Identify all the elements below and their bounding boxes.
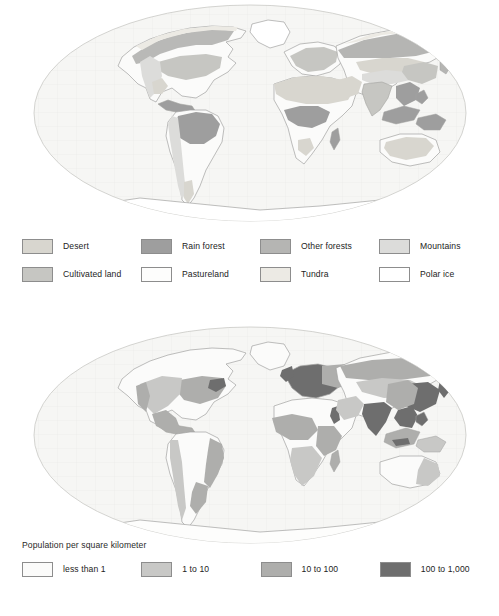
world-population-density-map bbox=[0, 322, 499, 550]
population-legend: Population per square kilometer less tha… bbox=[0, 540, 499, 616]
swatch-desert bbox=[22, 239, 53, 254]
legend-item-100-to-1000[interactable]: 100 to 1,000 bbox=[380, 562, 499, 577]
swatch-100-to-1000 bbox=[380, 562, 411, 577]
legend-label-10-to-100: 10 to 100 bbox=[302, 565, 339, 574]
legend-label-1-to-10: 1 to 10 bbox=[182, 565, 209, 574]
swatch-cultivated-land bbox=[22, 267, 53, 282]
land-use-map-svg bbox=[0, 0, 499, 228]
legend-item-other-forests[interactable]: Other forests bbox=[260, 239, 379, 254]
swatch-pastureland bbox=[141, 267, 172, 282]
legend-item-tundra[interactable]: Tundra bbox=[260, 267, 379, 282]
legend-label-mountains: Mountains bbox=[420, 242, 461, 251]
swatch-polar-ice bbox=[379, 267, 410, 282]
legend-label-rain-forest: Rain forest bbox=[182, 242, 225, 251]
legend-item-less-than-1[interactable]: less than 1 bbox=[22, 562, 141, 577]
legend-row-population: less than 1 1 to 10 10 to 100 100 to 1,0… bbox=[0, 556, 499, 582]
world-land-use-map bbox=[0, 0, 499, 228]
legend-item-polar-ice[interactable]: Polar ice bbox=[379, 267, 498, 282]
legend-label-desert: Desert bbox=[63, 242, 89, 251]
legend-label-other-forests: Other forests bbox=[301, 242, 352, 251]
legend-item-mountains[interactable]: Mountains bbox=[379, 239, 498, 254]
swatch-mountains bbox=[379, 239, 410, 254]
legend-item-10-to-100[interactable]: 10 to 100 bbox=[261, 562, 380, 577]
land-use-legend: Desert Rain forest Other forests Mountai… bbox=[0, 232, 499, 294]
swatch-1-to-10 bbox=[141, 562, 172, 577]
legend-label-100-to-1000: 100 to 1,000 bbox=[421, 565, 470, 574]
legend-row-2: Cultivated land Pastureland Tundra Polar… bbox=[0, 260, 499, 288]
legend-item-1-to-10[interactable]: 1 to 10 bbox=[141, 562, 260, 577]
legend-label-less-than-1: less than 1 bbox=[63, 565, 106, 574]
land-new-zealand-pop bbox=[454, 478, 464, 494]
population-legend-title: Population per square kilometer bbox=[22, 540, 499, 550]
legend-item-pastureland[interactable]: Pastureland bbox=[141, 267, 260, 282]
legend-label-tundra: Tundra bbox=[301, 270, 329, 279]
legend-label-cultivated-land: Cultivated land bbox=[63, 270, 121, 279]
legend-item-desert[interactable]: Desert bbox=[22, 239, 141, 254]
legend-label-pastureland: Pastureland bbox=[182, 270, 229, 279]
swatch-rain-forest bbox=[141, 239, 172, 254]
land-new-zealand bbox=[454, 156, 464, 172]
swatch-other-forests bbox=[260, 239, 291, 254]
legend-row-1: Desert Rain forest Other forests Mountai… bbox=[0, 232, 499, 260]
legend-item-rain-forest[interactable]: Rain forest bbox=[141, 239, 260, 254]
figure-page: Desert Rain forest Other forests Mountai… bbox=[0, 0, 499, 616]
legend-label-polar-ice: Polar ice bbox=[420, 270, 454, 279]
legend-item-cultivated-land[interactable]: Cultivated land bbox=[22, 267, 141, 282]
population-map-svg bbox=[0, 322, 499, 550]
swatch-10-to-100 bbox=[261, 562, 292, 577]
swatch-less-than-1 bbox=[22, 562, 53, 577]
swatch-tundra bbox=[260, 267, 291, 282]
land-japan bbox=[440, 56, 452, 74]
